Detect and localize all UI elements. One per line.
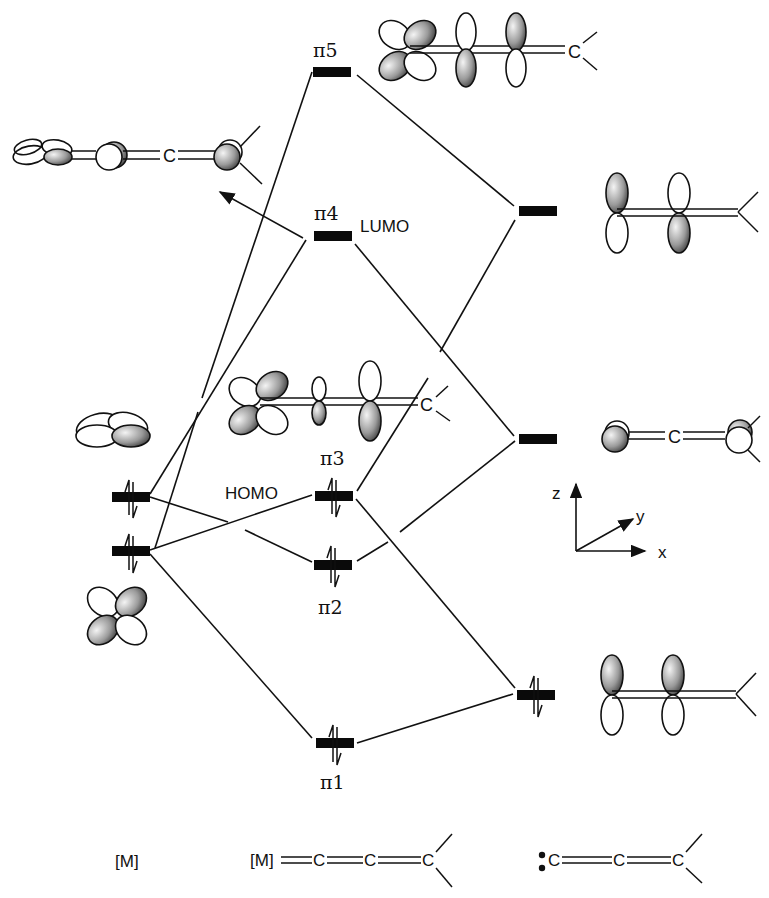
atom-c-lig-mid: C [668, 427, 681, 447]
orbital-pi4-picture: C [12, 126, 262, 184]
svg-text:C: C [613, 851, 625, 870]
correlation-lines [150, 72, 515, 743]
coordinate-axes: z y x [552, 484, 667, 562]
fragment-ligand-label: C C C [539, 834, 702, 883]
mo-diagram: π5 π4 LUMO π3 HOMO π2 π1 C [0, 0, 769, 898]
axis-x-label: x [658, 543, 667, 562]
fragment-labels: [M] [M] C C C C C C [115, 834, 702, 887]
atom-c-pi5: C [568, 42, 581, 62]
axis-y-label: y [636, 507, 645, 526]
label-pi3: π3 [320, 447, 345, 469]
line-dlower-pi5-a [155, 412, 198, 548]
svg-text:[M]: [M] [250, 851, 274, 870]
svg-text:C: C [364, 851, 376, 870]
level-d-upper [112, 492, 150, 502]
label-pi4: π4 [314, 202, 339, 224]
level-pi5 [313, 67, 351, 77]
fragment-metal-label: [M] [115, 852, 139, 871]
label-pi2: π2 [318, 596, 343, 618]
level-pi3 [315, 491, 353, 501]
line-dupper-pi4 [150, 240, 306, 494]
label-homo: HOMO [225, 484, 278, 503]
line-pi2-ligmid-b [400, 441, 515, 532]
orbital-d-upper-picture [73, 408, 150, 447]
line-pi3-ligupper-b [440, 220, 515, 352]
fragment-complex-label: [M] C C C [250, 834, 452, 887]
level-pi2 [314, 560, 352, 570]
atom-c-top: C [163, 146, 176, 166]
electron-pairs [125, 478, 542, 765]
atom-c-pi3: C [420, 395, 433, 415]
line-pi2-ligmid-a [357, 542, 388, 561]
label-pi5: π5 [313, 39, 338, 61]
line-pi1-liglower [357, 694, 513, 743]
line-pi3-liglower [356, 499, 515, 688]
arrow-pi4-to-orbital [220, 192, 303, 238]
label-lumo: LUMO [360, 217, 409, 236]
svg-text:C: C [313, 851, 325, 870]
level-lig-upper [519, 206, 557, 216]
line-pi5-ligupper [357, 75, 514, 206]
axis-z-label: z [552, 484, 561, 503]
line-dlower-pi1 [150, 554, 312, 738]
metal-levels [112, 492, 150, 556]
orbital-pi3-picture: C [224, 361, 450, 441]
line-dupper-pi2-b [245, 530, 312, 562]
svg-text:C: C [422, 851, 434, 870]
level-lig-lower [517, 690, 555, 700]
axis-y-arrow [576, 519, 633, 551]
line-dlower-pi5-b [202, 72, 312, 398]
orbital-pi5-picture: C [374, 13, 597, 87]
level-lig-mid [519, 434, 557, 444]
label-pi1: π1 [320, 771, 345, 793]
level-pi4 [314, 231, 352, 241]
orbital-d-lower-picture [82, 581, 153, 651]
orbital-lig-lower-picture [601, 655, 756, 735]
line-dlower-pi3 [150, 495, 312, 550]
level-pi1 [316, 738, 354, 748]
svg-text:C: C [548, 851, 560, 870]
svg-text:C: C [672, 851, 684, 870]
level-d-lower [112, 546, 150, 556]
orbital-lig-upper-picture [606, 173, 758, 253]
orbital-lig-mid-picture: C [602, 416, 760, 462]
ligand-levels [517, 206, 557, 700]
line-dupper-pi2-a [150, 497, 228, 522]
